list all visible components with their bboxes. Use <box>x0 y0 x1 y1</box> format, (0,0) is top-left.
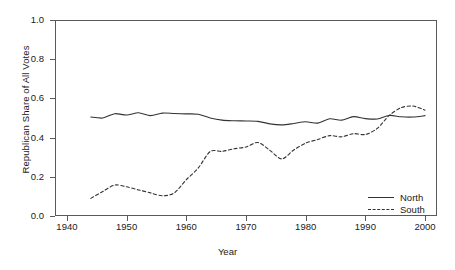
figure-title <box>0 0 455 1</box>
legend-line-icon-south <box>368 204 394 214</box>
x-tick-label: 1960 <box>166 222 206 232</box>
y-tick-label: 0.8 <box>18 54 44 64</box>
y-tick-label: 0.4 <box>18 133 44 143</box>
x-tick-mark <box>365 216 366 221</box>
legend: North South <box>368 191 425 215</box>
legend-label-north: North <box>400 192 423 203</box>
x-tick-mark <box>186 216 187 221</box>
x-tick-label: 1970 <box>226 222 266 232</box>
y-tick-label: 1.0 <box>18 15 44 25</box>
y-tick-label: 0.0 <box>18 211 44 221</box>
x-tick-mark <box>67 216 68 221</box>
legend-item-south: South <box>368 203 425 215</box>
series-line-north <box>91 113 425 125</box>
legend-item-north: North <box>368 191 425 203</box>
series-line-south <box>91 106 425 198</box>
x-tick-mark <box>127 216 128 221</box>
x-axis-title: Year <box>0 246 455 257</box>
x-tick-label: 1980 <box>286 222 326 232</box>
legend-line-icon-north <box>368 192 394 202</box>
legend-label-south: South <box>400 204 425 215</box>
x-tick-mark <box>306 216 307 221</box>
x-tick-label: 1940 <box>47 222 87 232</box>
x-tick-label: 2000 <box>405 222 445 232</box>
y-tick-label: 0.6 <box>18 93 44 103</box>
y-tick-mark <box>50 216 55 217</box>
y-tick-label: 0.2 <box>18 172 44 182</box>
x-tick-mark <box>246 216 247 221</box>
series-layer <box>55 20 437 216</box>
x-tick-label: 1990 <box>345 222 385 232</box>
chart-figure: Republican Share of All Votes 0.00.20.40… <box>0 0 455 270</box>
x-tick-mark <box>425 216 426 221</box>
x-tick-label: 1950 <box>107 222 147 232</box>
y-axis-title: Republican Share of All Votes <box>20 5 31 215</box>
